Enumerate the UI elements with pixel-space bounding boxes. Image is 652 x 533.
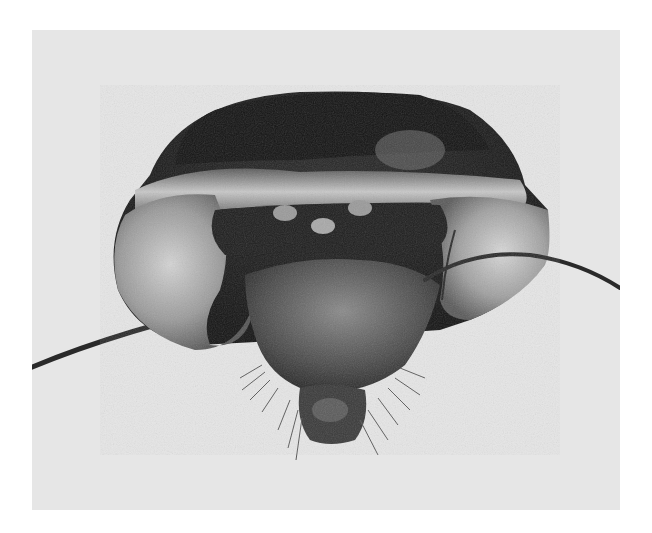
texture-overlay — [100, 85, 560, 455]
micrograph-photo — [32, 30, 620, 510]
insect-head-illustration — [32, 30, 620, 510]
